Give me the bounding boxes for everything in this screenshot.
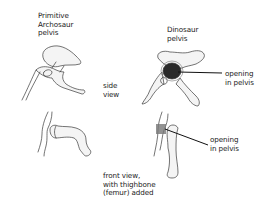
- dinosaur-pelvis-side-view: [142, 51, 222, 106]
- dinosaur-ischium: [176, 78, 199, 106]
- primitive-pelvis-front-outline: [38, 112, 52, 156]
- leader-line-side: [178, 72, 222, 73]
- primitive-ilium: [43, 46, 81, 67]
- dinosaur-opening-front-shade: [156, 124, 166, 134]
- dinosaur-opening-side-shade: [163, 63, 181, 79]
- pelvis-diagram-canvas: [0, 0, 267, 206]
- dinosaur-pelvis-front-view: [154, 112, 208, 178]
- primitive-femur: [50, 125, 91, 156]
- dinosaur-pubis: [142, 72, 164, 104]
- primitive-pubis-shaft: [22, 70, 40, 100]
- primitive-pelvis-front-view: [38, 112, 91, 156]
- primitive-pelvis-side-view: [22, 46, 85, 100]
